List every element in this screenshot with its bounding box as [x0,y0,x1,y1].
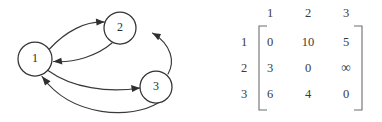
matrix-left-bracket [259,26,267,110]
distance-matrix: 1 2 3 1 2 3 0 10 5 3 [191,0,382,122]
matrix-row: 0 10 5 [267,35,349,49]
matrix-row-label-3: 3 [241,87,247,101]
matrix-row-label-1: 1 [241,35,247,49]
matrix-cell-r3c1: 6 [267,87,273,101]
edge-2-to-1-path [54,43,113,62]
figure-container: 1 2 3 1 2 3 1 2 3 [0,0,382,122]
edge-2-to-1 [53,43,112,65]
matrix-cell-r2c2: 0 [305,61,311,75]
matrix-cell-r2c1: 3 [267,61,273,75]
matrix-column-header-2: 2 [305,6,311,20]
edge-1-to-2-arrowhead [96,19,105,26]
edge-1-to-3-path [48,71,140,90]
matrix-cell-r3c2: 4 [305,87,312,101]
edge-3-to-2-arrowhead [152,33,161,40]
edge-3-to-1-arrowhead [42,76,51,85]
edge-3-to-2 [152,33,171,74]
matrix-cell-r1c2: 10 [302,35,315,49]
edge-1-to-3 [48,71,140,92]
graph-node-1[interactable]: 1 [18,42,52,76]
graph-node-3[interactable]: 3 [140,71,172,103]
edge-1-to-2 [50,19,105,49]
matrix-cell-r1c1: 0 [267,35,273,49]
matrix-panel: 1 2 3 1 2 3 0 10 5 3 [191,0,382,122]
node-3-label: 3 [153,79,159,93]
node-1-label: 1 [32,51,38,65]
matrix-column-header-3: 3 [343,6,349,20]
edge-1-to-3-arrowhead [131,85,140,92]
matrix-cell-r1c3: 5 [343,35,349,49]
graph-panel: 1 2 3 [0,0,191,122]
matrix-cell-r3c3: 0 [343,87,349,101]
graph-node-2[interactable]: 2 [104,12,136,44]
directed-graph-diagram: 1 2 3 [0,0,191,122]
matrix-column-headers: 1 2 3 [267,6,349,20]
matrix-row: 6 4 0 [267,87,349,101]
matrix-cell-r2c3-infinity: ∞ [341,60,351,75]
edge-1-to-2-path [50,22,105,49]
matrix-row: 3 0 ∞ [267,60,351,75]
edge-2-to-1-arrowhead [53,58,62,65]
edge-3-to-2-path [153,33,172,74]
matrix-right-bracket [354,26,362,110]
node-2-label: 2 [117,20,123,34]
matrix-column-header-1: 1 [267,6,273,20]
matrix-row-labels: 1 2 3 [241,35,247,101]
matrix-row-label-2: 2 [241,61,247,75]
